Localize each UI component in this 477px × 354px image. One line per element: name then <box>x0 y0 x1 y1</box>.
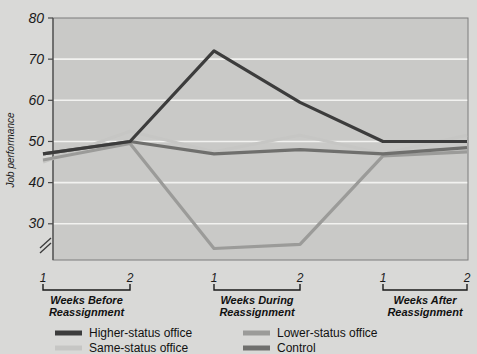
y-tick-label: 40 <box>28 174 44 190</box>
legend-label: Higher-status office <box>89 326 192 340</box>
line-chart-svg: 304050607080 Job performance 121212 Week… <box>0 0 477 354</box>
y-axis-label: Job performance <box>5 112 16 188</box>
group-label-line2: Reassignment <box>219 306 296 318</box>
group-label-line1: Weeks After <box>394 294 458 306</box>
y-tick-label: 80 <box>28 10 44 26</box>
y-tick-label: 30 <box>28 215 44 231</box>
group-labels: Weeks BeforeReassignmentWeeks DuringReas… <box>49 294 464 318</box>
group-label-line1: Weeks During <box>220 294 293 306</box>
group-label-line2: Reassignment <box>387 306 464 318</box>
x-tick-label: 1 <box>380 271 387 285</box>
chart-figure: 304050607080 Job performance 121212 Week… <box>0 0 477 354</box>
legend-label: Control <box>277 341 316 354</box>
legend-label: Same-status office <box>89 341 188 354</box>
x-tick-label: 1 <box>211 271 218 285</box>
plot-area <box>53 18 468 260</box>
y-tick-label: 50 <box>28 133 44 149</box>
x-tick-label: 1 <box>40 271 47 285</box>
y-tick-label: 70 <box>28 51 44 67</box>
group-label-line1: Weeks Before <box>50 294 123 306</box>
legend-label: Lower-status office <box>277 326 378 340</box>
group-label-line2: Reassignment <box>49 306 126 318</box>
x-tick-label: 2 <box>463 271 471 285</box>
x-tick-label: 2 <box>296 271 304 285</box>
y-tick-label: 60 <box>28 92 44 108</box>
x-tick-label: 2 <box>126 271 134 285</box>
